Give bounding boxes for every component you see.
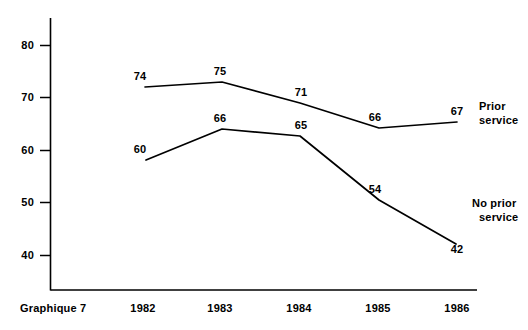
series-legend-no-prior-service-line2: service — [479, 210, 518, 224]
series-legend-prior-service-line2: service — [479, 113, 518, 127]
y-tick-label-40: 40 — [8, 249, 34, 262]
chart-figure: 80 70 60 50 40 1982 1983 1984 1985 1986 … — [0, 0, 528, 330]
data-label-noprior-1986: 42 — [444, 243, 470, 256]
data-label-noprior-1985: 54 — [362, 183, 388, 196]
series-line-no-prior-service — [146, 129, 456, 244]
y-tick-label-60: 60 — [8, 144, 34, 157]
y-tick-label-50: 50 — [8, 196, 34, 209]
series-legend-no-prior-service-line1: No prior — [472, 196, 516, 210]
chart-caption: Graphique 7 — [20, 302, 86, 315]
data-label-prior-1986: 67 — [444, 105, 470, 118]
series-legend-prior-service-line1: Prior — [479, 99, 506, 113]
x-tick-label-1983: 1983 — [190, 302, 250, 315]
x-tick-label-1986: 1986 — [427, 302, 487, 315]
data-label-noprior-1983: 66 — [207, 112, 233, 125]
y-tick-label-70: 70 — [8, 91, 34, 104]
chart-plot-area — [0, 0, 528, 330]
y-tick-label-80: 80 — [8, 39, 34, 52]
data-label-noprior-1982: 60 — [127, 143, 153, 156]
data-label-prior-1985: 66 — [362, 111, 388, 124]
data-label-prior-1982: 74 — [127, 70, 153, 83]
data-label-prior-1984: 71 — [288, 86, 314, 99]
data-label-prior-1983: 75 — [207, 65, 233, 78]
x-tick-label-1984: 1984 — [269, 302, 329, 315]
data-label-noprior-1984: 65 — [288, 119, 314, 132]
x-tick-label-1985: 1985 — [348, 302, 408, 315]
x-tick-label-1982: 1982 — [113, 302, 173, 315]
